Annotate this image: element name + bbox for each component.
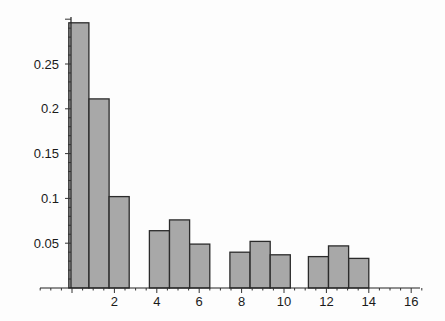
bar [170, 220, 190, 288]
y-tick-label: 0.05 [34, 236, 59, 251]
y-tick-label: 0.2 [41, 101, 59, 116]
bar [69, 23, 89, 288]
bar [149, 231, 169, 288]
x-tick-label: 14 [362, 294, 376, 309]
x-tick-label: 4 [153, 294, 160, 309]
y-tick-label: 0.1 [41, 191, 59, 206]
x-tick-label: 16 [404, 294, 418, 309]
x-axis: 246810121416 [40, 288, 422, 309]
x-tick-label: 8 [238, 294, 245, 309]
bar [308, 257, 328, 288]
x-tick-label: 12 [319, 294, 333, 309]
bar [349, 258, 369, 288]
bar-series [69, 23, 369, 288]
bar [190, 244, 210, 288]
y-axis: 0.050.10.150.20.25 [34, 17, 71, 288]
x-tick-label: 6 [196, 294, 203, 309]
y-tick-label: 0.15 [34, 146, 59, 161]
bar [250, 241, 270, 288]
bar [89, 99, 109, 288]
bar [329, 246, 349, 288]
histogram-chart: 246810121416 0.050.10.150.20.25 [0, 0, 445, 321]
bar [270, 255, 290, 288]
x-tick-label: 2 [111, 294, 118, 309]
x-tick-label: 10 [277, 294, 291, 309]
y-tick-label: 0.25 [34, 57, 59, 72]
bar [230, 252, 250, 288]
bar [109, 197, 129, 288]
